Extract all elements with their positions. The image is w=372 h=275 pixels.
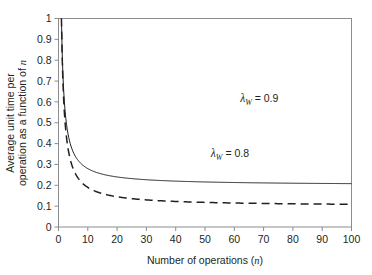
y-axis-title-line2: operation as a function of n [16,60,28,186]
y-tick-label: 0.7 [37,75,52,87]
x-tick-label: 70 [258,233,270,245]
y-axis-title-line1: Average unit time per [4,73,16,173]
y-tick-label: 0.5 [37,116,52,128]
annotation-lambda-value-1: = 0.8 [223,147,250,159]
x-tick-label: 100 [343,233,361,245]
annotation-lambda-0-9: λW = 0.9 [239,92,278,107]
x-tick-label: 0 [56,233,62,245]
series-annotations: λW = 0.9 λW = 0.8 [210,92,279,162]
x-axis-ticks [59,227,352,231]
x-tick-label: 80 [287,233,299,245]
series-line-lambda-0-9 [61,19,351,205]
data-curves [61,19,351,205]
y-tick-label: 0.3 [37,158,52,170]
y-axis-title-group: Average unit time per operation as a fun… [4,60,28,186]
y-tick-label: 0.2 [37,179,52,191]
y-tick-label: 1 [46,12,52,24]
chart-figure: 00.10.20.30.40.50.60.70.80.91 0102030405… [0,0,372,275]
y-axis-tick-labels: 00.10.20.30.40.50.60.70.80.91 [37,12,52,233]
x-tick-label: 30 [141,233,153,245]
annotation-lambda-0-8: λW = 0.8 [210,147,249,162]
annotation-lambda-value-0: = 0.9 [252,92,279,104]
y-tick-label: 0 [46,221,52,233]
x-axis-title: Number of operations (n) [147,254,263,266]
x-tick-label: 90 [316,233,328,245]
axes-frame [59,19,352,228]
x-axis-tick-labels: 0102030405060708090100 [56,233,361,245]
series-line-lambda-0-8 [61,19,351,184]
plot-frame [59,19,352,228]
y-tick-label: 0.9 [37,33,52,45]
x-tick-label: 40 [170,233,182,245]
x-tick-label: 10 [82,233,94,245]
line-chart-plot: 00.10.20.30.40.50.60.70.80.91 0102030405… [0,0,372,275]
y-tick-label: 0.4 [37,137,52,149]
x-tick-label: 20 [111,233,123,245]
x-axis-title-close: ) [260,254,264,266]
y-axis-title-variable: n [17,60,28,65]
x-tick-label: 60 [228,233,240,245]
x-axis-title-main: Number of operations ( [147,254,255,266]
y-tick-label: 0.8 [37,54,52,66]
y-axis-ticks [55,19,59,228]
y-tick-label: 0.1 [37,200,52,212]
x-tick-label: 50 [199,233,211,245]
y-tick-label: 0.6 [37,96,52,108]
y-axis-title-line2-main: operation as a function of [16,65,28,186]
